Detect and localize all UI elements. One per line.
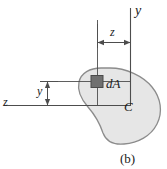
z-dimension-arrowhead-left xyxy=(98,40,105,45)
z-dimension-arrowhead-right xyxy=(124,40,131,45)
differential-area-label: dA xyxy=(106,77,120,90)
centroid-label: C xyxy=(124,100,133,113)
figure-drawing xyxy=(0,0,167,169)
y-axis-label: y xyxy=(135,4,141,18)
figure-container: y z z y dA C (b) xyxy=(0,0,167,169)
y-dimension-label: y xyxy=(37,85,42,97)
figure-caption: (b) xyxy=(120,152,135,165)
y-dimension-arrowhead-top xyxy=(45,82,50,89)
z-axis-label: z xyxy=(3,96,8,108)
z-dimension-label: z xyxy=(110,26,115,38)
y-dimension-arrowhead-bottom xyxy=(45,99,50,106)
differential-area-element xyxy=(91,76,103,88)
